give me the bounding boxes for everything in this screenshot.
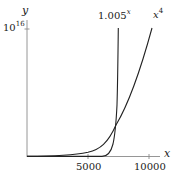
poly-sup: 4: [159, 7, 163, 15]
y-tick-label: 1016: [3, 23, 25, 33]
exp-sup: x: [127, 8, 131, 16]
label-exp-curve: 1.005x: [98, 11, 131, 21]
x-tick-label-10000: 10000: [134, 162, 166, 172]
y-tick-exp: 16: [16, 20, 25, 28]
chart-canvas: [0, 0, 174, 175]
y-axis-label: y: [22, 5, 28, 16]
y-tick-base: 10: [3, 22, 16, 33]
curve-exp: [27, 28, 118, 156]
label-poly-curve: x4: [153, 10, 163, 20]
exp-base: 1.005: [98, 10, 127, 21]
curve-x4: [27, 28, 152, 156]
x-axis-label: x: [164, 148, 170, 159]
x-tick-label-5000: 5000: [76, 162, 101, 172]
